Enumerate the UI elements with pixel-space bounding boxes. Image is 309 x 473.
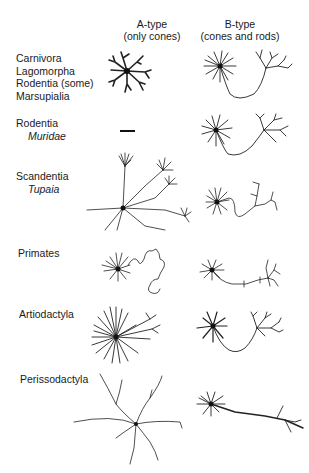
row-label-scandentia-tupaia: Scandentia Tupaia (16, 170, 69, 195)
label-line: Lagomorpha (16, 65, 94, 78)
column-subtitle: (cones and rods) (195, 30, 285, 42)
neuron-b-type-perissodactyla (195, 390, 307, 440)
label-line: Rodentia (some) (16, 77, 94, 90)
label-line: Carnivora (16, 52, 94, 65)
column-header-a-type: A-type (only cones) (112, 18, 192, 42)
neuron-a-type-tupaia (85, 150, 195, 230)
label-line: Marsupialia (16, 90, 94, 103)
column-title: A-type (112, 18, 192, 30)
absent-dash-a-type-muridae (120, 130, 135, 132)
label-line-italic: Muridae (16, 130, 66, 143)
neuron-b-type-carnivora (200, 46, 295, 101)
neuron-b-type-primates (198, 254, 288, 294)
column-title: B-type (195, 18, 285, 30)
label-line: Scandentia (16, 170, 69, 183)
neuron-b-type-muridae (200, 112, 295, 162)
row-label-rodentia-muridae: Rodentia Muridae (16, 117, 66, 142)
neuron-a-type-primates (100, 245, 175, 295)
column-header-b-type: B-type (cones and rods) (195, 18, 285, 42)
label-line: Artiodactyla (19, 308, 74, 321)
neuron-a-type-perissodactyla (72, 368, 187, 468)
label-line-italic: Tupaia (16, 183, 69, 196)
row-label-artiodactyla: Artiodactyla (19, 308, 74, 321)
neuron-a-type-artiodactyla (90, 305, 170, 365)
label-line: Rodentia (16, 117, 66, 130)
label-line: Primates (18, 247, 59, 260)
row-label-carnivora-group: Carnivora Lagomorpha Rodentia (some) Mar… (16, 52, 94, 102)
neuron-b-type-artiodactyla (195, 310, 290, 360)
row-label-primates: Primates (18, 247, 59, 260)
column-subtitle: (only cones) (112, 30, 192, 42)
neuron-b-type-tupaia (205, 176, 290, 226)
neuron-a-type-carnivora (105, 48, 155, 98)
